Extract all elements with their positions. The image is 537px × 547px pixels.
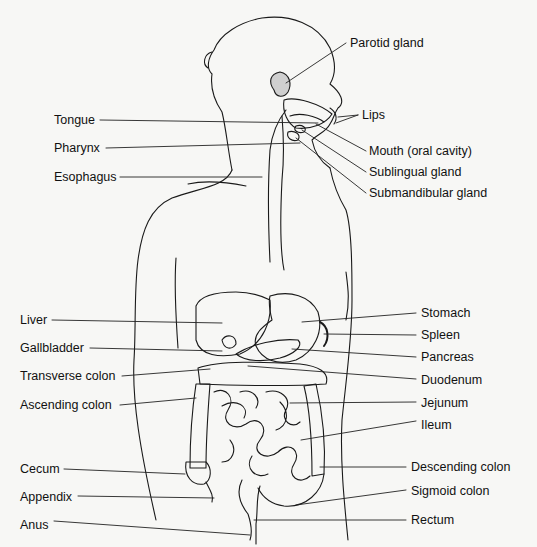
- label-descending-colon: Descending colon: [411, 460, 510, 474]
- small-intestine-loops: [214, 390, 310, 480]
- label-cecum: Cecum: [20, 462, 60, 476]
- label-tongue: Tongue: [54, 113, 95, 127]
- sigmoid-colon-shape: [258, 474, 324, 506]
- leader-line-anus: [54, 521, 250, 535]
- torso-right-outline: [330, 168, 352, 540]
- label-stomach: Stomach: [421, 306, 470, 320]
- tongue-shape: [290, 114, 324, 122]
- leader-line-pancreas: [292, 349, 416, 357]
- label-ileum: Ileum: [421, 418, 452, 432]
- label-mouth-oral-cavity: Mouth (oral cavity): [369, 144, 472, 158]
- leader-line-spleen: [324, 334, 416, 335]
- digestive-system-diagram: TonguePharynxEsophagusLiverGallbladderTr…: [0, 0, 537, 547]
- label-liver: Liver: [20, 313, 47, 327]
- leader-line-parotid-gland: [286, 43, 346, 83]
- label-ascending-colon: Ascending colon: [20, 398, 112, 412]
- leader-line-jejunum: [290, 402, 416, 403]
- stomach-shape: [255, 294, 320, 363]
- leader-line-duodenum: [248, 366, 416, 379]
- label-submandibular-gland: Submandibular gland: [369, 186, 487, 200]
- pancreas-shape: [236, 340, 300, 361]
- label-jejunum: Jejunum: [421, 396, 468, 410]
- leader-line-ascending-colon: [120, 398, 196, 405]
- label-lips: Lips: [362, 108, 385, 122]
- label-rectum: Rectum: [411, 513, 454, 527]
- leader-line-appendix: [78, 496, 214, 498]
- transverse-colon-shape: [198, 362, 327, 385]
- appendix-shape: [206, 482, 213, 502]
- label-pharynx: Pharynx: [54, 141, 100, 155]
- parotid-gland-shape: [271, 72, 290, 96]
- oral-cavity: [284, 99, 332, 128]
- gallbladder-shape: [222, 336, 236, 348]
- liver-shape: [196, 292, 270, 356]
- leader-line-sublingual-gland: [302, 130, 366, 172]
- label-spleen: Spleen: [421, 328, 460, 342]
- esophagus-tube: [281, 116, 284, 270]
- label-appendix: Appendix: [20, 490, 72, 504]
- label-sublingual-gland: Sublingual gland: [369, 165, 461, 179]
- leader-line-sigmoid-colon: [296, 490, 406, 505]
- leader-line-mouth-oral-cavity: [316, 124, 366, 151]
- leader-line-transverse-colon: [122, 369, 210, 376]
- right-arm-inner: [346, 272, 348, 320]
- label-gallbladder: Gallbladder: [20, 341, 84, 355]
- ascending-colon-shape: [190, 384, 210, 468]
- label-transverse-colon: Transverse colon: [20, 369, 115, 383]
- leader-line-ileum: [301, 421, 416, 440]
- torso-left-outline: [134, 170, 232, 520]
- label-duodenum: Duodenum: [421, 373, 482, 387]
- leader-line-tongue: [100, 120, 318, 123]
- label-anus: Anus: [20, 518, 49, 532]
- label-sigmoid-colon: Sigmoid colon: [411, 484, 490, 498]
- label-pancreas: Pancreas: [421, 350, 474, 364]
- label-parotid-gland: Parotid gland: [350, 36, 424, 50]
- leader-line-cecum: [64, 469, 185, 474]
- label-esophagus: Esophagus: [54, 170, 117, 184]
- cecum-shape: [186, 462, 211, 484]
- descending-colon-shape: [304, 384, 325, 476]
- left-arm-inner: [175, 258, 178, 348]
